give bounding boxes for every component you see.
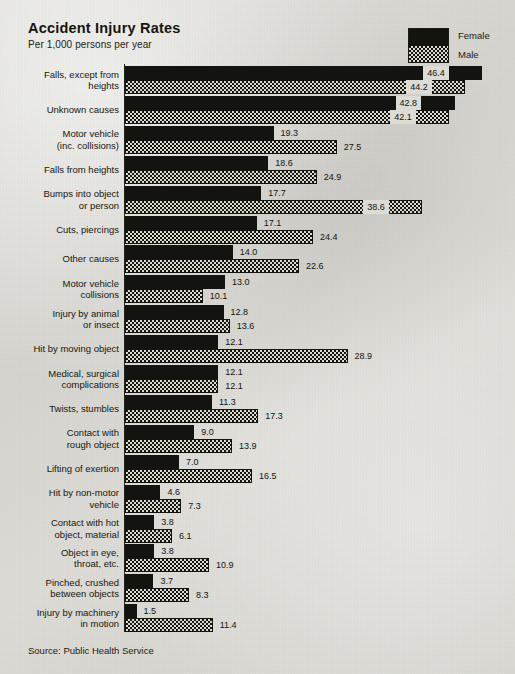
bar-group-other-causes: Other causes14.022.6: [0, 245, 515, 273]
bar-group-injury-by-machinery-in-motion: Injury by machineryin motion1.511.4: [0, 604, 515, 632]
category-label-line: Falls, except from: [0, 69, 119, 81]
category-label-line: throat, etc.: [0, 558, 119, 570]
bar-group-contact-with-rough-object: Contact withrough object9.013.9: [0, 425, 515, 453]
category-label-line: Falls from heights: [0, 164, 119, 176]
category-label-line: Hit by moving object: [0, 343, 119, 355]
bar-group-motor-vehicle-collisions: Motor vehiclecollisions13.010.1: [0, 275, 515, 303]
value-label-male-contact-with-hot-object-material: 6.1: [176, 530, 195, 542]
bar-male-falls-from-heights: [125, 170, 317, 184]
value-label-male-medical-surgical-complications: 12.1: [222, 380, 246, 392]
value-label-female-lifting-of-exertion: 7.0: [183, 456, 202, 468]
bar-row-female-contact-with-rough-object: 9.0: [125, 425, 511, 439]
category-label-object-in-eye-throat-etc: Object in eye,throat, etc.: [0, 547, 119, 570]
bar-female-pinched-crushed-between-objects: [125, 574, 153, 588]
bar-row-female-unknown-causes: 42.8: [125, 96, 511, 110]
category-label-line: between objects: [0, 588, 119, 600]
category-label-contact-with-hot-object-material: Contact with hotobject, material: [0, 517, 119, 540]
category-label-line: Injury by machinery: [0, 607, 119, 619]
bar-group-twists-stumbles: Twists, stumbles11.317.3: [0, 395, 515, 423]
bar-male-injury-by-machinery-in-motion: [125, 618, 213, 632]
bar-row-male-motor-vehicle-inc-collisions: 27.5: [125, 140, 511, 154]
value-label-female-motor-vehicle-inc-collisions: 19.3: [278, 127, 302, 139]
bar-row-female-injury-by-animal-or-insect: 12.8: [125, 305, 511, 319]
chart-legend: Female Male: [408, 28, 512, 64]
bar-female-other-causes: [125, 245, 233, 259]
category-label-injury-by-animal-or-insect: Injury by animalor insect: [0, 308, 119, 331]
value-label-female-medical-surgical-complications: 12.1: [222, 366, 246, 378]
bar-row-female-falls-from-heights: 18.6: [125, 156, 511, 170]
category-label-line: Pinched, crushed: [0, 577, 119, 589]
bar-row-male-object-in-eye-throat-etc: 10.9: [125, 558, 511, 572]
accident-injury-rates-chart: Accident Injury Rates Per 1,000 persons …: [0, 0, 515, 674]
bar-row-male-falls-from-heights: 24.9: [125, 170, 511, 184]
category-label-line: Twists, stumbles: [0, 403, 119, 415]
value-label-female-object-in-eye-throat-etc: 3.8: [158, 545, 177, 557]
category-label-other-causes: Other causes: [0, 253, 119, 265]
bar-group-falls-except-from-heights: Falls, except fromheights46.444.2: [0, 66, 515, 94]
value-label-male-contact-with-rough-object: 13.9: [236, 440, 260, 452]
bar-row-male-other-causes: 22.6: [125, 259, 511, 273]
category-label-line: or person: [0, 200, 119, 212]
bar-row-male-medical-surgical-complications: 12.1: [125, 379, 511, 393]
bar-male-medical-surgical-complications: [125, 379, 218, 393]
chart-title: Accident Injury Rates: [28, 20, 180, 36]
bar-male-contact-with-hot-object-material: [125, 529, 172, 543]
bar-row-female-other-causes: 14.0: [125, 245, 511, 259]
bar-group-medical-surgical-complications: Medical, surgicalcomplications12.112.1: [0, 365, 515, 393]
value-label-male-hit-by-moving-object: 28.9: [352, 350, 376, 362]
category-label-twists-stumbles: Twists, stumbles: [0, 403, 119, 415]
value-label-male-lifting-of-exertion: 16.5: [256, 470, 280, 482]
bar-group-cuts-piercings: Cuts, piercings17.124.4: [0, 216, 515, 244]
value-label-male-falls-except-from-heights: 44.2: [407, 81, 431, 93]
value-label-male-cuts-piercings: 24.4: [317, 231, 341, 243]
bar-group-motor-vehicle-inc-collisions: Motor vehicle(inc. collisions)19.327.5: [0, 126, 515, 154]
bar-row-male-pinched-crushed-between-objects: 8.3: [125, 588, 511, 602]
bar-female-bumps-into-object-or-person: [125, 186, 261, 200]
value-label-female-falls-except-from-heights: 46.4: [424, 67, 448, 79]
category-label-line: (inc. collisions): [0, 140, 119, 152]
bar-group-hit-by-moving-object: Hit by moving object12.128.9: [0, 335, 515, 363]
value-label-female-twists-stumbles: 11.3: [216, 396, 239, 408]
category-label-line: collisions: [0, 289, 119, 301]
value-label-male-injury-by-machinery-in-motion: 11.4: [217, 619, 240, 631]
value-label-female-other-causes: 14.0: [237, 246, 261, 258]
bar-row-male-unknown-causes: 42.1: [125, 110, 511, 124]
bar-group-object-in-eye-throat-etc: Object in eye,throat, etc.3.810.9: [0, 544, 515, 572]
value-label-male-twists-stumbles: 17.3: [262, 410, 286, 422]
bar-female-contact-with-hot-object-material: [125, 515, 154, 529]
bar-row-male-hit-by-moving-object: 28.9: [125, 349, 511, 363]
category-label-line: Cuts, piercings: [0, 224, 119, 236]
bar-male-injury-by-animal-or-insect: [125, 319, 230, 333]
bar-row-male-injury-by-machinery-in-motion: 11.4: [125, 618, 511, 632]
legend-swatch: [408, 28, 449, 63]
bar-row-female-medical-surgical-complications: 12.1: [125, 365, 511, 379]
category-label-hit-by-moving-object: Hit by moving object: [0, 343, 119, 355]
category-label-line: Lifting of exertion: [0, 463, 119, 475]
bar-row-female-motor-vehicle-inc-collisions: 19.3: [125, 126, 511, 140]
category-label-line: Medical, surgical: [0, 368, 119, 380]
value-label-female-pinched-crushed-between-objects: 3.7: [157, 575, 176, 587]
bar-row-female-hit-by-non-motor-vehicle: 4.6: [125, 485, 511, 499]
bar-row-male-injury-by-animal-or-insect: 13.6: [125, 319, 511, 333]
category-label-line: rough object: [0, 439, 119, 451]
bar-male-twists-stumbles: [125, 409, 258, 423]
value-label-male-injury-by-animal-or-insect: 13.6: [234, 320, 258, 332]
bar-male-object-in-eye-throat-etc: [125, 558, 209, 572]
value-label-female-falls-from-heights: 18.6: [272, 157, 296, 169]
category-label-line: Object in eye,: [0, 547, 119, 559]
category-label-cuts-piercings: Cuts, piercings: [0, 224, 119, 236]
bar-row-female-twists-stumbles: 11.3: [125, 395, 511, 409]
legend-swatch-female: [409, 29, 448, 46]
category-label-line: vehicle: [0, 499, 119, 511]
bar-row-female-motor-vehicle-collisions: 13.0: [125, 275, 511, 289]
bar-female-hit-by-non-motor-vehicle: [125, 485, 160, 499]
value-label-male-other-causes: 22.6: [303, 260, 327, 272]
category-label-line: Injury by animal: [0, 308, 119, 320]
value-label-female-bumps-into-object-or-person: 17.7: [265, 187, 289, 199]
bar-row-female-object-in-eye-throat-etc: 3.8: [125, 544, 511, 558]
category-label-line: Hit by non-motor: [0, 487, 119, 499]
bar-group-falls-from-heights: Falls from heights18.624.9: [0, 156, 515, 184]
bar-female-twists-stumbles: [125, 395, 212, 409]
bar-male-hit-by-non-motor-vehicle: [125, 499, 181, 513]
category-label-injury-by-machinery-in-motion: Injury by machineryin motion: [0, 607, 119, 630]
